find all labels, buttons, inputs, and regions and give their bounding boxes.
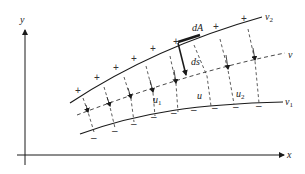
curve-v [77,53,285,115]
svg-text:+: + [173,36,179,47]
svg-text:v1: v1 [285,96,293,109]
svg-text:–: – [91,132,97,143]
svg-text:+: + [113,62,119,73]
svg-text:–: – [131,118,137,129]
line-element-label: ds [191,56,200,67]
u2-label: u2 [236,88,245,101]
y-axis-label: y [19,14,25,25]
svg-text:–: – [256,100,262,111]
curve-v2 [70,17,262,103]
svg-text:+: + [150,43,156,54]
svg-text:–: – [233,101,239,112]
field-lines-diagram: y x dA ds v2 v v1 u1 [0,0,305,174]
axes: y x [17,14,292,165]
svg-text:+: + [213,21,219,32]
line-element-arrow [178,43,186,75]
svg-text:–: – [212,102,218,113]
negative-charges: – – – – – – – – – [91,100,262,143]
svg-text:–: – [171,107,177,118]
svg-text:u: u [197,90,202,101]
svg-text:+: + [131,53,137,64]
svg-text:+: + [94,72,100,83]
curve-v1 [80,102,283,134]
curve-v1-label: v1 [285,96,293,109]
svg-text:v: v [288,49,293,60]
svg-text:–: – [191,104,197,115]
area-element-label: dA [192,22,204,33]
svg-text:–: – [151,111,157,122]
svg-text:v2: v2 [265,11,273,24]
curve-v-label: v [288,49,293,60]
x-axis-label: x [286,149,292,160]
svg-text:–: – [112,125,118,136]
svg-text:u2: u2 [236,88,245,101]
svg-text:+: + [75,85,81,96]
u-label: u [197,90,202,101]
curve-v2-label: v2 [265,11,273,24]
svg-text:+: + [241,13,247,24]
